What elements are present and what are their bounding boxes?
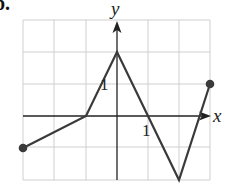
left-endpoint-dot: [19, 144, 28, 153]
y-tick-label: 1: [100, 75, 109, 94]
x-axis-label: x: [212, 105, 222, 126]
y-axis-label: y: [109, 0, 120, 19]
function-graph: y x 1 1: [0, 0, 225, 183]
x-tick-label: 1: [142, 121, 151, 140]
right-endpoint-dot: [206, 80, 215, 89]
